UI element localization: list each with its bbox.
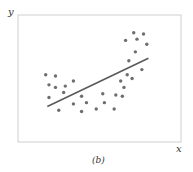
- data-point: [142, 32, 145, 35]
- data-point: [114, 93, 117, 96]
- figure-caption: (b): [92, 155, 105, 165]
- data-point: [72, 102, 75, 105]
- data-point: [130, 77, 133, 80]
- data-point: [80, 95, 83, 98]
- x-axis-label: x: [176, 143, 182, 154]
- data-point: [127, 59, 130, 62]
- data-point: [121, 95, 124, 98]
- data-point: [47, 96, 50, 99]
- data-point: [134, 50, 137, 53]
- y-axis-label: y: [8, 6, 14, 17]
- data-point: [132, 31, 135, 34]
- data-point: [122, 86, 125, 89]
- data-point: [126, 73, 129, 76]
- plot-frame: [18, 15, 181, 142]
- data-point: [103, 101, 106, 104]
- scatter-plot: [0, 0, 193, 172]
- data-point: [72, 79, 75, 82]
- data-point: [124, 39, 127, 42]
- data-point: [80, 110, 83, 113]
- data-point: [47, 83, 50, 86]
- data-point: [85, 101, 88, 104]
- data-point: [112, 107, 115, 110]
- data-point: [119, 79, 122, 82]
- data-point: [54, 86, 57, 89]
- data-point: [64, 84, 67, 87]
- data-point: [62, 91, 65, 94]
- data-point: [145, 43, 148, 46]
- data-point: [95, 107, 98, 110]
- fit-line: [47, 58, 148, 106]
- data-point: [140, 68, 143, 71]
- data-point: [135, 37, 138, 40]
- data-point: [44, 73, 47, 76]
- data-point: [54, 74, 57, 77]
- data-point: [57, 109, 60, 112]
- data-point: [101, 92, 104, 95]
